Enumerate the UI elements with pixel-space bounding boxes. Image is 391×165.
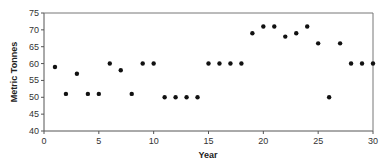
- data-point: [316, 41, 320, 45]
- data-point: [195, 95, 199, 99]
- y-tick-label: 60: [29, 59, 39, 69]
- data-point: [75, 71, 79, 75]
- data-point: [338, 41, 342, 45]
- x-axis-title: Year: [198, 150, 218, 160]
- data-point: [206, 61, 210, 65]
- y-tick-label: 50: [29, 92, 39, 102]
- data-point: [86, 92, 90, 96]
- data-point: [53, 65, 57, 69]
- data-point: [97, 92, 101, 96]
- x-tick-label: 5: [96, 136, 101, 146]
- y-axis-title: Metric Tonnes: [9, 42, 19, 102]
- data-point: [162, 95, 166, 99]
- x-tick-label: 25: [313, 136, 323, 146]
- data-point: [64, 92, 68, 96]
- plot-frame: [44, 13, 373, 131]
- data-point: [108, 61, 112, 65]
- y-tick-label: 55: [29, 75, 39, 85]
- data-point: [239, 61, 243, 65]
- data-point: [349, 61, 353, 65]
- y-tick-label: 65: [29, 42, 39, 52]
- x-tick-label: 20: [258, 136, 268, 146]
- data-point: [294, 31, 298, 35]
- data-point: [360, 61, 364, 65]
- data-point: [151, 61, 155, 65]
- data-point: [272, 24, 276, 28]
- data-point: [283, 34, 287, 38]
- y-tick-label: 75: [29, 8, 39, 18]
- data-point: [371, 61, 375, 65]
- data-point: [250, 31, 254, 35]
- data-points: [53, 24, 375, 99]
- data-point: [228, 61, 232, 65]
- x-tick-label: 0: [41, 136, 46, 146]
- data-point: [305, 24, 309, 28]
- data-point: [327, 95, 331, 99]
- x-tick-label: 10: [149, 136, 159, 146]
- y-ticks: 4045505560657075: [29, 8, 44, 136]
- data-point: [141, 61, 145, 65]
- data-point: [184, 95, 188, 99]
- y-tick-label: 40: [29, 126, 39, 136]
- y-tick-label: 70: [29, 25, 39, 35]
- data-point: [261, 24, 265, 28]
- data-point: [130, 92, 134, 96]
- data-point: [217, 61, 221, 65]
- data-point: [173, 95, 177, 99]
- x-ticks: 051015202530: [41, 131, 378, 146]
- x-tick-label: 15: [203, 136, 213, 146]
- scatter-chart: 4045505560657075 051015202530 Metric Ton…: [0, 0, 391, 165]
- data-point: [119, 68, 123, 72]
- x-tick-label: 30: [368, 136, 378, 146]
- y-tick-label: 45: [29, 109, 39, 119]
